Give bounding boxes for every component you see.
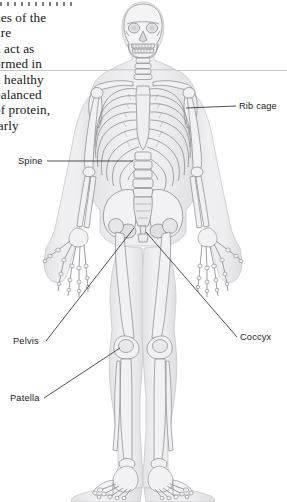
label-coccyx: Coccyx [240,332,271,342]
pelvis-bones [103,189,182,242]
leader-line-patella [44,348,120,398]
label-rib-cage: Rib cage [239,101,277,111]
skeleton-illustration [0,0,287,502]
cervical-vertebrae [134,58,152,80]
label-spine: Spine [18,156,43,166]
label-patella: Patella [10,393,39,403]
lumbar-vertebrae [133,152,153,197]
skeleton-figure [0,0,287,502]
textbook-page: nes of the ure d act as ormed in n healt… [0,0,287,502]
label-pelvis: Pelvis [13,336,39,346]
skull-bones [124,4,162,58]
